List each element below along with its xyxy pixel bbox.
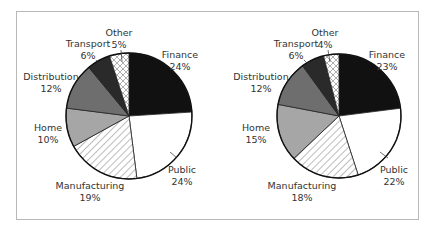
pie-chart-right bbox=[277, 54, 401, 178]
label-home-name: Home bbox=[34, 122, 62, 133]
label-transport-name: Transport bbox=[273, 38, 319, 49]
label-manufacturing-pct: 19% bbox=[79, 192, 100, 203]
label-transport-name: Transport bbox=[65, 38, 111, 49]
label-other-name: Other bbox=[312, 27, 339, 38]
label-public-name: Public bbox=[380, 164, 408, 175]
label-transport-pct: 6% bbox=[288, 50, 303, 61]
label-finance-pct: 23% bbox=[376, 61, 397, 72]
label-public-pct: 24% bbox=[171, 176, 192, 187]
label-public-name: Public bbox=[168, 164, 196, 175]
label-home-pct: 15% bbox=[245, 134, 266, 145]
label-home-name: Home bbox=[242, 122, 270, 133]
label-manufacturing-pct: 18% bbox=[291, 192, 312, 203]
label-manufacturing-name: Manufacturing bbox=[268, 180, 337, 191]
label-distribution-pct: 12% bbox=[250, 83, 271, 94]
label-finance-name: Finance bbox=[162, 49, 198, 60]
label-finance-pct: 24% bbox=[169, 61, 190, 72]
label-other-name: Other bbox=[106, 27, 133, 38]
label-manufacturing-name: Manufacturing bbox=[56, 180, 125, 191]
label-distribution-name: Distribution bbox=[23, 71, 78, 82]
label-distribution-name: Distribution bbox=[233, 71, 288, 82]
label-finance-name: Finance bbox=[369, 49, 405, 60]
label-distribution-pct: 12% bbox=[40, 83, 61, 94]
label-public-pct: 22% bbox=[383, 176, 404, 187]
label-home-pct: 10% bbox=[37, 134, 58, 145]
label-transport-pct: 6% bbox=[80, 50, 95, 61]
label-other-pct: 4% bbox=[317, 39, 332, 50]
label-other-pct: 5% bbox=[111, 39, 126, 50]
pie-charts-canvas: Finance 24% Public 24% Manufacturing 19%… bbox=[0, 0, 430, 226]
